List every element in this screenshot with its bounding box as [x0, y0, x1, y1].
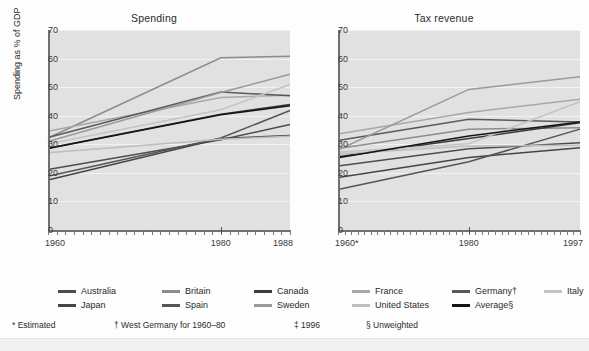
- footnote: * Estimated: [12, 320, 55, 330]
- y-tick-label: 0: [338, 225, 342, 235]
- legend-label: Average§: [475, 299, 513, 312]
- x-tick: [462, 230, 463, 235]
- x-tick: [74, 230, 75, 235]
- x-tick: [212, 230, 213, 235]
- legend-row: JapanSpainSwedenUnited StatesAverage§: [22, 299, 570, 312]
- legend-swatch: [58, 304, 76, 306]
- legend-label: Spain: [185, 299, 208, 312]
- footnote: † West Germany for 1960–80: [114, 320, 225, 330]
- y-tick-label: 20: [48, 168, 52, 178]
- x-tick: [230, 230, 231, 235]
- y-tick-label: 60: [338, 54, 342, 64]
- chart-legend: AustraliaBritainCanadaFranceGermany†Ital…: [22, 285, 570, 315]
- x-tick-label: 1997: [563, 238, 583, 248]
- x-tick: [281, 230, 282, 235]
- legend-item-united-states[interactable]: United States: [352, 299, 429, 312]
- x-tick-label: 1960*: [335, 238, 359, 248]
- legend-item-canada[interactable]: Canada: [254, 285, 309, 298]
- legend-item-japan[interactable]: Japan: [58, 299, 106, 312]
- x-tick: [475, 230, 476, 235]
- x-tick: [521, 230, 522, 235]
- chart-panel-spending: Spending Spending as % of GDP AustraliaB…: [18, 12, 290, 270]
- plot-canvas-tax-revenue: AustraliaBritainCanadaFranceGermany†Ital…: [338, 30, 580, 230]
- y-tick-label: 30: [48, 139, 52, 149]
- y-tick-label: 10: [338, 196, 342, 206]
- x-tick: [351, 230, 352, 235]
- x-tick: [534, 230, 535, 235]
- y-tick-label: 40: [48, 111, 52, 121]
- legend-item-average[interactable]: Average§: [452, 299, 513, 312]
- legend-swatch: [254, 290, 272, 292]
- legend-item-france[interactable]: France: [352, 285, 403, 298]
- x-tick: [195, 230, 196, 235]
- x-tick: [397, 230, 398, 235]
- footnote-row: * Estimated† West Germany for 1960–80‡ 1…: [6, 320, 586, 334]
- legend-swatch: [352, 304, 370, 306]
- x-tick: [541, 230, 542, 235]
- legend-label: Britain: [185, 285, 211, 298]
- x-tick: [456, 230, 457, 235]
- legend-item-australia[interactable]: Australia: [58, 285, 116, 298]
- x-tick: [416, 230, 417, 235]
- legend-item-germany[interactable]: Germany†: [452, 285, 517, 298]
- x-axis-ticks-spending: [48, 230, 290, 237]
- legend-item-italy[interactable]: Italy: [544, 285, 584, 298]
- legend-item-sweden[interactable]: Sweden: [254, 299, 310, 312]
- x-tick: [358, 230, 359, 235]
- plot-area-spending: Spending as % of GDP AustraliaBritainCan…: [18, 30, 290, 254]
- x-tick: [169, 230, 170, 235]
- x-tick: [567, 230, 568, 235]
- x-tick: [410, 230, 411, 235]
- x-tick: [160, 230, 161, 235]
- footnote: ‡ 1996: [294, 320, 320, 330]
- x-tick: [65, 230, 66, 235]
- x-tick: [488, 230, 489, 235]
- y-axis-label: Spending as % of GDP: [12, 7, 22, 100]
- chart-panel-tax-revenue: Tax revenue AustraliaBritainCanadaFrance…: [308, 12, 580, 270]
- y-tick-label: 40: [338, 111, 342, 121]
- x-tick: [502, 230, 503, 235]
- bottom-rule: [0, 338, 589, 351]
- legend-label: Sweden: [277, 299, 310, 312]
- legend-item-britain[interactable]: Britain: [162, 285, 211, 298]
- x-tick-label: 1960: [45, 238, 65, 248]
- x-tick: [273, 230, 274, 235]
- y-tick-label: 50: [338, 82, 342, 92]
- x-tick: [495, 230, 496, 235]
- x-tick: [573, 230, 574, 235]
- x-tick: [482, 230, 483, 235]
- x-tick: [436, 230, 437, 235]
- x-tick-major: [469, 227, 470, 234]
- legend-swatch: [452, 304, 470, 306]
- legend-swatch: [544, 290, 562, 292]
- x-tick: [371, 230, 372, 235]
- plot-area-tax-revenue: AustraliaBritainCanadaFranceGermany†Ital…: [308, 30, 580, 254]
- x-tick-label: 1980: [459, 238, 479, 248]
- y-tick-label: 70: [48, 25, 52, 35]
- x-tick: [83, 230, 84, 235]
- legend-item-spain[interactable]: Spain: [162, 299, 208, 312]
- plot-canvas-spending: AustraliaBritainCanadaFranceGermany†Ital…: [48, 30, 290, 230]
- x-tick: [100, 230, 101, 235]
- x-tick: [547, 230, 548, 235]
- legend-swatch: [58, 290, 76, 292]
- x-tick: [508, 230, 509, 235]
- x-tick: [449, 230, 450, 235]
- legend-row: AustraliaBritainCanadaFranceGermany†Ital…: [22, 285, 570, 298]
- footnote: § Unweighted: [366, 320, 418, 330]
- panel-title-spending: Spending: [18, 12, 290, 24]
- x-tick: [443, 230, 444, 235]
- x-tick: [390, 230, 391, 235]
- y-tick-label: 0: [48, 225, 52, 235]
- series-lines-tax-revenue: AustraliaBritainCanadaFranceGermany†Ital…: [338, 30, 580, 230]
- x-tick: [178, 230, 179, 235]
- x-tick: [403, 230, 404, 235]
- x-tick: [91, 230, 92, 235]
- x-tick: [430, 230, 431, 235]
- legend-swatch: [162, 290, 180, 292]
- x-tick: [126, 230, 127, 235]
- legend-swatch: [452, 290, 470, 292]
- x-tick: [264, 230, 265, 235]
- legend-swatch: [254, 304, 272, 306]
